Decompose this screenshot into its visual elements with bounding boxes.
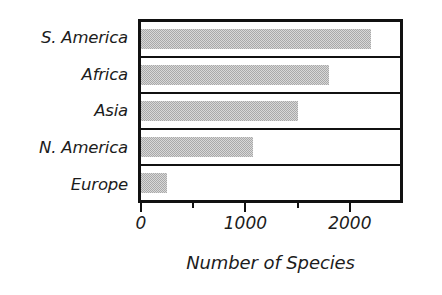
x-minor-tick-500 (192, 203, 194, 208)
bar-chart-figure: S. America Africa Asia N. America Europe (0, 0, 442, 295)
category-axis-labels: S. America Africa Asia N. America Europe (0, 19, 134, 203)
category-label-europe: Europe (0, 166, 134, 203)
bar-row-europe (141, 166, 400, 200)
x-tick-label-0: 0 (136, 213, 147, 233)
bar-asia (141, 101, 298, 121)
bar-africa (141, 65, 329, 85)
bar-row-africa (141, 58, 400, 94)
category-label-africa: Africa (0, 56, 134, 93)
bar-row-asia (141, 94, 400, 130)
plot-bands (141, 22, 400, 200)
x-tick-2000 (349, 203, 351, 212)
bar-europe (141, 173, 167, 193)
bar-row-n-america (141, 130, 400, 166)
bar-s-america (141, 29, 371, 49)
x-axis-title: Number of Species (138, 252, 403, 273)
x-tick-0 (140, 203, 142, 212)
x-tick-label-1000: 1000 (224, 213, 267, 233)
x-tick-1000 (244, 203, 246, 212)
bar-n-america (141, 137, 253, 157)
x-tick-label-2000: 2000 (328, 213, 371, 233)
x-minor-tick-1500 (297, 203, 299, 208)
category-label-asia: Asia (0, 93, 134, 130)
category-label-n-america: N. America (0, 129, 134, 166)
category-label-s-america: S. America (0, 19, 134, 56)
plot-area (138, 19, 403, 203)
bar-row-s-america (141, 22, 400, 58)
